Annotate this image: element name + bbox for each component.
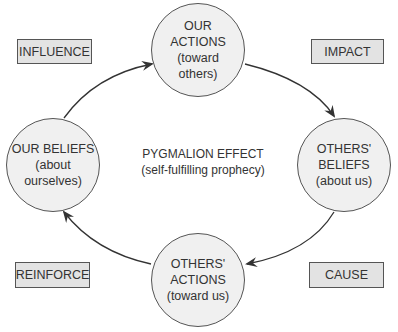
node-our-actions: OUR ACTIONS (toward others) xyxy=(151,3,245,97)
node-line: ourselves) xyxy=(24,173,82,189)
node-line: OTHERS' xyxy=(317,141,371,157)
node-others-actions: OTHERS' ACTIONS (toward us) xyxy=(151,233,245,327)
node-line: BELIEFS xyxy=(318,157,369,173)
arrow-influence xyxy=(64,64,152,118)
node-line: (about us) xyxy=(316,173,372,189)
node-line: OUR BELIEFS xyxy=(12,141,95,157)
center-caption: PYGMALION EFFECT (self-fulfilling prophe… xyxy=(138,146,268,178)
center-title: PYGMALION EFFECT xyxy=(138,146,268,162)
node-line: others) xyxy=(179,66,218,82)
node-line: (toward us) xyxy=(167,288,230,304)
node-line: ACTIONS xyxy=(170,34,226,50)
node-our-beliefs: OUR BELIEFS (about ourselves) xyxy=(6,118,100,212)
node-line: (toward xyxy=(177,50,219,66)
node-line: ACTIONS xyxy=(170,272,226,288)
arrow-reinforce xyxy=(64,212,151,264)
label-impact: IMPACT xyxy=(311,39,384,64)
node-line: (about xyxy=(35,157,70,173)
node-line: OTHERS' xyxy=(171,256,225,272)
center-subtitle: (self-fulfilling prophecy) xyxy=(138,162,268,178)
label-influence: INFLUENCE xyxy=(17,39,92,64)
node-line: OUR xyxy=(184,18,212,34)
label-cause: CAUSE xyxy=(309,262,384,288)
arrow-cause xyxy=(247,212,334,264)
label-reinforce: REINFORCE xyxy=(15,262,90,288)
arrow-impact xyxy=(245,64,334,116)
node-others-beliefs: OTHERS' BELIEFS (about us) xyxy=(297,118,391,212)
